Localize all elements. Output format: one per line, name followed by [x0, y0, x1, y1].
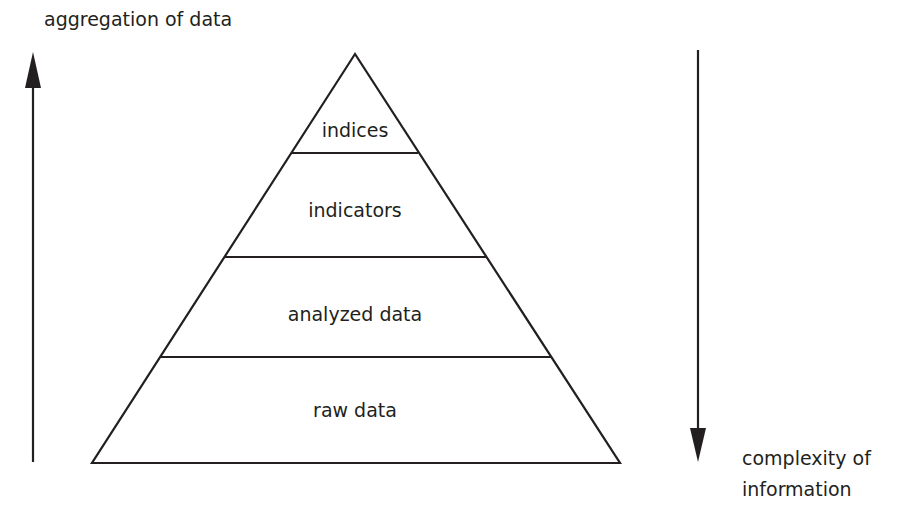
complexity-arrow: [690, 50, 706, 462]
level-label-indicators: indicators: [308, 198, 402, 222]
level-label-indices: indices: [322, 118, 389, 142]
pyramid-diagram: [0, 0, 900, 514]
aggregation-arrow: [25, 52, 41, 462]
arrow-down-icon: [690, 428, 706, 462]
level-label-raw-data: raw data: [313, 398, 397, 422]
complexity-label-line2: information: [742, 477, 852, 501]
aggregation-of-data-label: aggregation of data: [44, 7, 232, 31]
arrow-up-icon: [25, 52, 41, 88]
level-label-analyzed-data: analyzed data: [288, 302, 422, 326]
complexity-label-line1: complexity of: [742, 446, 871, 470]
